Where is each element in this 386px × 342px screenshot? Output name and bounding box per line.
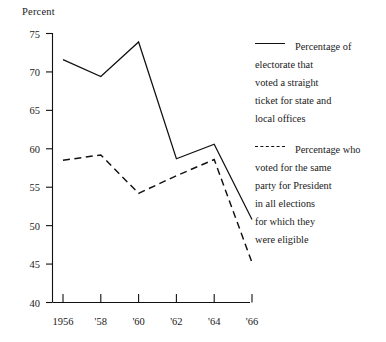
y-tick-label: 45 xyxy=(14,259,40,270)
legend-entry-same-party-president: Percentage who voted for the same party … xyxy=(255,139,386,247)
legend-label-straight-ticket: Percentage of electorate that voted a st… xyxy=(255,41,351,124)
y-tick-label: 75 xyxy=(14,28,40,39)
y-axis-ticks xyxy=(46,34,53,303)
legend-entry-straight-ticket: Percentage of electorate that voted a st… xyxy=(255,36,386,126)
x-axis-ticks xyxy=(63,294,252,303)
y-tick-label: 60 xyxy=(14,143,40,154)
chart-legend: Percentage of electorate that voted a st… xyxy=(255,36,386,260)
x-tick-label: '62 xyxy=(170,316,182,327)
solid-line-swatch xyxy=(255,43,285,44)
x-tick-label: '60 xyxy=(132,316,144,327)
x-tick-label: '58 xyxy=(95,316,107,327)
x-tick-label: '64 xyxy=(208,316,220,327)
x-axis xyxy=(53,294,253,303)
y-tick-label: 40 xyxy=(14,297,40,308)
dashed-line-swatch xyxy=(255,146,285,147)
percent-line-chart: Percent 4045505560657075 1956'58'60'62'6… xyxy=(0,0,386,342)
x-tick-label: 1956 xyxy=(53,316,74,327)
y-axis xyxy=(46,33,53,303)
y-tick-label: 50 xyxy=(14,220,40,231)
y-tick-label: 70 xyxy=(14,66,40,77)
y-tick-label: 55 xyxy=(14,182,40,193)
series-line-same-party-president xyxy=(63,155,252,263)
series-line-straight-ticket xyxy=(63,42,252,220)
y-tick-label: 65 xyxy=(14,105,40,116)
x-tick-label: '66 xyxy=(246,316,258,327)
legend-label-same-party-president: Percentage who voted for the same party … xyxy=(255,144,360,245)
